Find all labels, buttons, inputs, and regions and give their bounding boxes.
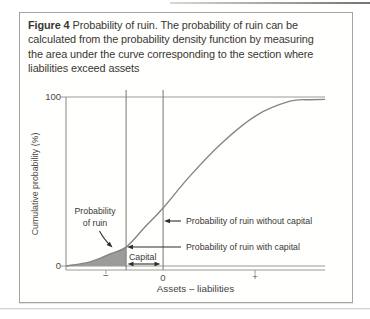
figure-box: Figure 4Probability of ruin. The probabi… bbox=[19, 12, 353, 303]
x-tick-label-minus: − bbox=[96, 270, 116, 281]
page-top-rule bbox=[170, 2, 370, 4]
x-tick-label-zero: 0 bbox=[153, 272, 173, 283]
annotation-ruin-without-capital: Probability of ruin without capital bbox=[186, 216, 312, 226]
x-axis-title: Assets – liabilities bbox=[66, 283, 325, 294]
page-bottom-rule bbox=[0, 308, 370, 310]
annotation-probability-of-ruin: Probability of ruin bbox=[62, 206, 128, 229]
x-tick-label-plus: + bbox=[245, 271, 265, 282]
figure-caption-label: Figure 4 bbox=[28, 19, 70, 31]
y-axis-title: Cumulative probability (%) bbox=[30, 133, 40, 236]
figure-caption: Figure 4Probability of ruin. The probabi… bbox=[28, 18, 352, 75]
figure-caption-text: Probability of ruin. The probability of … bbox=[28, 19, 314, 74]
page: Figure 4Probability of ruin. The probabi… bbox=[0, 0, 370, 319]
y-tick-label-100: 100 bbox=[33, 91, 61, 102]
annotation-ruin-with-capital: Probability of ruin with capital bbox=[186, 242, 300, 252]
annotation-capital: Capital bbox=[129, 252, 156, 262]
y-tick-label-0: 0 bbox=[33, 260, 61, 271]
